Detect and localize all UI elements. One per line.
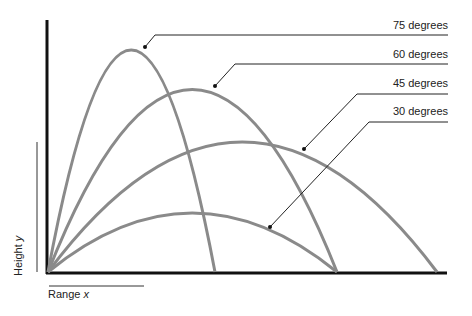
x-axis-variable: x <box>83 288 89 300</box>
trajectory-45-degrees <box>48 142 437 272</box>
y-axis-label-text: Height <box>12 244 24 276</box>
x-axis-label: Range x <box>48 288 89 300</box>
label-60-degrees: 60 degrees <box>393 48 448 60</box>
leader-dot-30 <box>268 225 272 229</box>
leader-line-75 <box>145 35 448 47</box>
y-axis-label: Height y <box>12 236 24 276</box>
leader-line-30 <box>270 122 448 227</box>
x-axis-label-text: Range <box>48 288 80 300</box>
leader-dot-75 <box>143 45 147 49</box>
leader-dot-60 <box>213 84 217 88</box>
label-30-degrees: 30 degrees <box>393 105 448 117</box>
y-axis-variable: y <box>12 236 24 242</box>
label-45-degrees: 45 degrees <box>393 77 448 89</box>
label-75-degrees: 75 degrees <box>393 19 448 31</box>
leader-dot-45 <box>302 147 306 151</box>
trajectory-60-degrees <box>48 90 337 273</box>
